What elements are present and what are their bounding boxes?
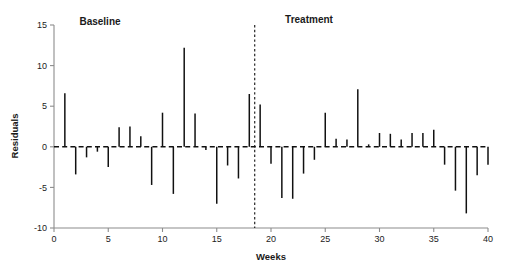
treatment-phase-label: Treatment bbox=[285, 14, 333, 25]
y-axis-title: Residuals bbox=[9, 114, 20, 159]
x-tick-label: 15 bbox=[212, 234, 222, 244]
y-tick-label: 0 bbox=[42, 142, 47, 152]
x-tick-label: 0 bbox=[51, 234, 56, 244]
x-tick-label: 30 bbox=[374, 234, 384, 244]
x-tick-label: 10 bbox=[157, 234, 167, 244]
residuals-over-weeks-chart: -10-5051015 0510152025303540 Residuals W… bbox=[0, 0, 515, 269]
residual-bars bbox=[65, 48, 488, 214]
x-tick-label: 20 bbox=[266, 234, 276, 244]
y-tick-label: 10 bbox=[37, 61, 47, 71]
x-tick-label: 25 bbox=[320, 234, 330, 244]
y-tick-label: -10 bbox=[34, 223, 47, 233]
x-tick-label: 5 bbox=[106, 234, 111, 244]
x-axis-ticks: 0510152025303540 bbox=[51, 228, 493, 244]
y-tick-label: 15 bbox=[37, 20, 47, 30]
y-tick-label: 5 bbox=[42, 101, 47, 111]
residual-chart-container: -10-5051015 0510152025303540 Residuals W… bbox=[0, 0, 515, 269]
x-axis-title: Weeks bbox=[256, 251, 286, 262]
chart-axes bbox=[54, 25, 488, 228]
y-tick-label: -5 bbox=[39, 183, 47, 193]
baseline-phase-label: Baseline bbox=[79, 16, 121, 27]
x-tick-label: 40 bbox=[483, 234, 493, 244]
x-tick-label: 35 bbox=[429, 234, 439, 244]
y-axis-ticks: -10-5051015 bbox=[34, 20, 54, 233]
